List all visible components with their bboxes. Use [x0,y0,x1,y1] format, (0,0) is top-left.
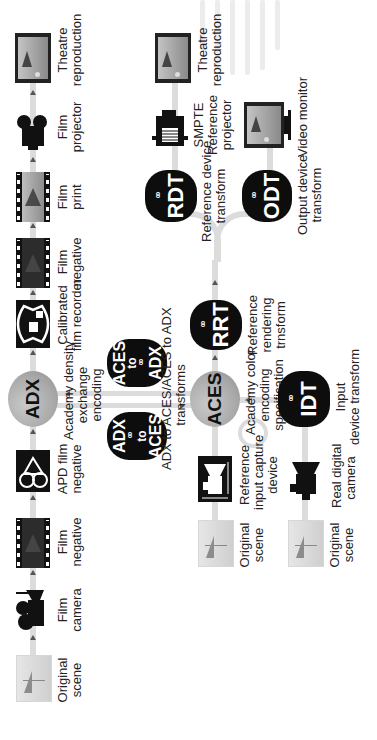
real-digital-camera-icon [286,456,326,502]
aces-label: ACES [204,373,226,426]
film-projector-icon [14,106,52,152]
film-negative-2-label: Filmnegative [56,234,84,290]
arrow-icon [30,350,36,355]
film-negative-label: Filmnegative [56,514,84,570]
arrow-icon [30,90,36,95]
rrt-caption: Referencerenderingtrnsform [246,295,288,355]
original-scene-2-label: Originalscene [238,520,266,570]
gears-icon: °° [138,361,148,366]
idt-caption: Inputdevice transform [334,349,362,445]
arrow-icon [30,495,36,500]
film-negative-icon [16,518,50,568]
film-negative-2-icon [16,238,50,288]
apd-film-negative-icon [16,450,50,492]
film-camera-icon [14,586,52,632]
arrow-icon [30,223,36,228]
theatre-screen-icon [15,33,51,83]
aces-to-adx-transform: ACES to °° ADX [107,339,167,387]
rdt-caption: Reference devicetransform [200,150,228,242]
odt-transform: °° ODT [242,170,292,222]
arrow-icon [212,280,218,285]
film-print-label: Filmprint [56,171,84,223]
original-scene-3-thumbnail [288,520,324,567]
film-print-icon [16,172,50,222]
theatre-screen-2-icon [155,33,191,83]
arrow-icon [30,570,36,575]
arrow-icon [30,157,36,162]
film-recorder-icon [16,300,50,348]
transforms-caption: ADX to ACES/ACES to ADXtransforms [160,320,188,470]
arrow-icon [212,355,218,360]
adx-caption: Academy densityexchangeencoding [62,350,104,440]
original-scene-2-thumbnail [198,520,234,567]
original-scene-3-label: Originalscene [328,520,356,570]
theatre-reproduction-2-label: Theatrereproduction [196,10,224,90]
adx-label: ADX [22,379,44,419]
apd-film-negative-label: APD filmnegative [56,441,84,497]
aces-pipeline-connector [212,315,218,555]
theatre-reproduction-label: Theatrereproduction [56,10,84,90]
film-projector-label: Filmprojector [56,97,84,157]
smpte-projector-icon [150,106,190,152]
aces-node: ACES [190,371,240,427]
rdt-transform: °° RDT [145,170,197,222]
video-monitor-label: Video monitor [296,72,310,162]
aces-workflow-diagram: Originalscene Filmcamera Filmnegative AP… [0,0,377,740]
adx-node: ADX [8,371,58,427]
adx-to-aces-transform: ADX °° to ACES [107,412,167,460]
real-digital-camera-label: Real digitalcamera [330,448,358,508]
arrow-icon [30,635,36,640]
arrow-icon [30,429,36,434]
original-scene-thumbnail [16,655,52,702]
reference-input-capture-icon [198,456,232,502]
original-scene-label: Originalscene [56,655,84,705]
rrt-transform: °° RRT [190,300,242,350]
odt-caption: Output devicetransform [296,155,324,235]
reference-input-capture-label: Referenceinput capturedevice [238,440,280,510]
arrow-icon [30,290,36,295]
video-monitor-icon [244,94,292,148]
film-camera-label: Filmcamera [56,585,84,635]
idt-transform: °° IDT [278,371,330,427]
smpte-projector-label: SMPTEReferenceprojector [192,95,234,155]
